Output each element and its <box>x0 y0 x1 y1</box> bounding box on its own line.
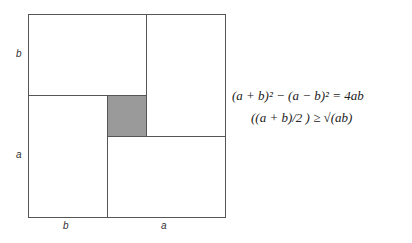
label-bottom-a: a <box>161 220 167 231</box>
outer-right-edge <box>225 14 226 218</box>
inner-horizontal-top <box>28 95 146 96</box>
outer-left-edge <box>28 14 29 218</box>
inner-horizontal-bottom <box>107 136 225 137</box>
inner-vertical-right <box>146 14 147 136</box>
equation-2: ((a + b)/2 ) ≥ √(ab) <box>251 110 352 126</box>
equation-1: (a + b)² − (a − b)² = 4ab <box>232 88 364 104</box>
outer-bottom-edge <box>28 217 226 218</box>
label-left-a: a <box>16 149 22 160</box>
label-left-b: b <box>16 48 22 59</box>
outer-top-edge <box>28 14 226 15</box>
label-bottom-b: b <box>63 220 69 231</box>
inner-vertical-left <box>107 95 108 217</box>
center-square <box>107 95 146 136</box>
